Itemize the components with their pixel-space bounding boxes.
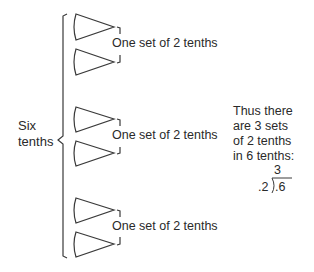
conclusion-line-3: of 2 tenths (233, 134, 294, 149)
wedge-icon-5 (74, 198, 114, 223)
division-quotient: 3 (274, 163, 281, 177)
division-divisor: .2 (258, 180, 268, 194)
set-label-1: One set of 2 tenths (112, 36, 218, 51)
group-label-line-1: Six (18, 118, 53, 134)
division-dividend: .6 (275, 180, 285, 194)
large-brace-icon (58, 14, 67, 258)
wedge-icon-2 (74, 49, 114, 75)
wedge-group (74, 14, 114, 257)
group-label-line-2: tenths (18, 134, 53, 150)
wedge-icon-1 (74, 14, 114, 40)
conclusion-line-4: in 6 tenths: (233, 149, 294, 164)
conclusion-line-1: Thus there (233, 104, 294, 119)
conclusion-line-2: are 3 sets (233, 119, 294, 134)
set-label-3: One set of 2 tenths (112, 219, 218, 234)
wedge-icon-4 (74, 141, 114, 166)
conclusion-text: Thus there are 3 sets of 2 tenths in 6 t… (233, 104, 294, 164)
wedge-icon-6 (74, 232, 114, 257)
group-label: Six tenths (18, 118, 53, 150)
set-label-2: One set of 2 tenths (112, 128, 218, 143)
wedge-icon-3 (74, 107, 114, 132)
